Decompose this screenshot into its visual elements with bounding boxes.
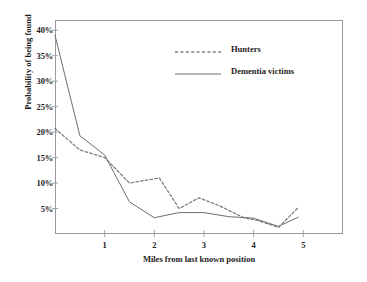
y-axis-title: Probability of being found (23, 0, 33, 142)
y-axis-tick-label: 5% (41, 204, 53, 214)
y-axis-tick-label: 10% (37, 178, 53, 188)
legend-swatch-solid-line (175, 73, 221, 75)
x-axis-tick-label: 1 (103, 240, 107, 250)
y-axis-tick-label: 15% (37, 153, 53, 163)
y-axis-tick-label: 20% (37, 127, 53, 137)
x-axis-tick-label: 3 (202, 240, 206, 250)
legend-label-hunters: Hunters (231, 44, 261, 54)
y-axis-tick-label: 30% (37, 76, 53, 86)
x-axis-tick-label: 2 (152, 240, 156, 250)
legend-item-dementia-victims: Dementia victims (175, 66, 335, 88)
x-axis-title: Miles from last known position (55, 254, 343, 264)
chart-legend: Hunters Dementia victims (175, 44, 335, 88)
series-line-hunters (55, 129, 298, 228)
x-axis-tick-label: 4 (251, 240, 255, 250)
y-axis-tick-label: 40% (37, 25, 53, 35)
y-axis-tick-label: 35% (37, 51, 53, 61)
legend-label-dementia-victims: Dementia victims (231, 66, 294, 76)
chart-canvas (0, 0, 367, 282)
x-axis-tick-label: 5 (301, 240, 305, 250)
y-axis-tick-label: 25% (37, 102, 53, 112)
chart-figure: 5%10%15%20%25%30%35%40% 12345 Miles from… (0, 0, 367, 282)
legend-item-hunters: Hunters (175, 44, 335, 66)
legend-swatch-dashed-line (175, 51, 221, 53)
